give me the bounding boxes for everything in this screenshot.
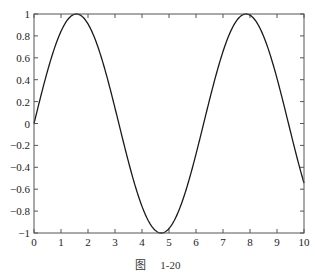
x-tick-label: 1: [58, 236, 64, 248]
axis-ticks: [34, 14, 304, 233]
caption-prefix: 图: [135, 259, 146, 271]
sine-line-chart: 01234567891010.80.60.40.20−0.2−0.4−0.6−0…: [0, 0, 315, 279]
y-tick-label: −0.6: [10, 183, 30, 195]
y-tick-label: 1: [25, 8, 31, 20]
figure-caption: 图 1-20: [0, 256, 315, 272]
y-tick-label: −0.8: [10, 205, 30, 217]
y-tick-label: 0: [25, 118, 31, 130]
x-tick-label: 3: [112, 236, 118, 248]
y-tick-label: −1: [18, 227, 30, 239]
x-tick-label: 0: [31, 236, 37, 248]
y-tick-label: 0.2: [16, 96, 30, 108]
plot-area-frame: [34, 14, 304, 233]
axis-tick-labels: 01234567891010.80.60.40.20−0.2−0.4−0.6−0…: [10, 8, 310, 248]
x-tick-label: 5: [166, 236, 172, 248]
y-tick-label: 0.4: [16, 74, 30, 86]
chart-figure: 01234567891010.80.60.40.20−0.2−0.4−0.6−0…: [0, 0, 315, 279]
x-tick-label: 7: [220, 236, 226, 248]
x-tick-label: 8: [247, 236, 253, 248]
y-tick-label: −0.4: [10, 161, 30, 173]
x-tick-label: 9: [274, 236, 280, 248]
x-tick-label: 10: [299, 236, 311, 248]
caption-number: 1-20: [160, 259, 180, 271]
x-tick-label: 2: [85, 236, 91, 248]
sine-curve: [34, 14, 304, 233]
y-tick-label: −0.2: [10, 139, 30, 151]
x-tick-label: 4: [139, 236, 145, 248]
y-tick-label: 0.8: [16, 30, 30, 42]
y-tick-label: 0.6: [16, 52, 30, 64]
x-tick-label: 6: [193, 236, 199, 248]
